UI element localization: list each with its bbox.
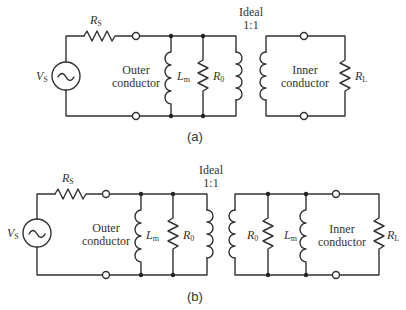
outer-conductor-label: Outerconductor [78,222,134,247]
inductor-lm [165,36,171,116]
terminal [333,272,340,279]
transformer-primary [236,52,242,100]
transformer-label: Ideal1:1 [231,6,271,31]
inductor-lm-secondary [300,194,306,275]
resistor-rs [84,31,133,41]
sine-wave-icon [58,74,74,81]
inductor-lm-primary [135,194,141,275]
circuit-diagrams [0,0,406,310]
outer-conductor-label: Outerconductor [108,64,164,89]
label-rs: RS [62,172,74,186]
label-r0-secondary: R0 [247,229,258,243]
label-lm: Lm [146,229,159,243]
label-r0: R0 [183,229,194,243]
transformer-label: Ideal1:1 [191,164,231,189]
label-r0: R0 [213,70,224,84]
terminal [301,113,308,120]
label-lm: Lm [177,70,190,84]
resistor-r0-secondary [263,194,273,275]
label-rs: RS [90,14,102,28]
transformer-primary [207,210,213,258]
terminal [301,33,308,40]
inner-conductor-label: Innerconductor [316,223,368,248]
label-rl: RL [355,70,367,84]
label-lm-secondary: Lm [284,229,297,243]
label-rl: RL [387,229,399,243]
resistor-r0 [198,36,208,116]
terminal [133,113,140,120]
caption-b: (b) [187,290,203,303]
transformer-secondary [229,210,235,258]
label-vs: VS [36,70,48,84]
terminal [333,191,340,198]
label-vs: VS [7,227,19,241]
sine-wave-icon [29,231,45,238]
caption-a: (a) [187,130,203,143]
terminal [103,272,110,279]
resistor-rs [55,189,103,199]
terminal [133,33,140,40]
terminal [103,191,110,198]
transformer-secondary [260,52,266,100]
inner-conductor-label: Innerconductor [280,64,330,89]
resistor-r0-primary [168,194,178,275]
